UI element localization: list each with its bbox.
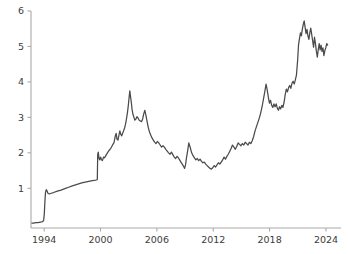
line-chart: 123456 199420002006201220182024 [0, 0, 348, 254]
y-axis-ticks: 123456 [18, 5, 31, 193]
x-tick-label: 2018 [258, 234, 282, 245]
chart-canvas: 123456 199420002006201220182024 [0, 0, 348, 254]
y-tick-label: 5 [18, 41, 24, 52]
y-tick-label: 6 [18, 5, 24, 16]
data-series [32, 21, 328, 223]
x-axis-ticks: 199420002006201220182024 [32, 228, 338, 245]
y-tick-label: 4 [18, 76, 24, 87]
series-line-value [32, 21, 328, 223]
x-tick-label: 2006 [145, 234, 169, 245]
y-tick-label: 3 [18, 112, 24, 123]
y-tick-label: 2 [18, 147, 24, 158]
x-tick-label: 1994 [32, 234, 56, 245]
x-tick-label: 2012 [201, 234, 225, 245]
x-tick-label: 2024 [314, 234, 338, 245]
y-tick-label: 1 [18, 183, 24, 194]
x-tick-label: 2000 [88, 234, 112, 245]
